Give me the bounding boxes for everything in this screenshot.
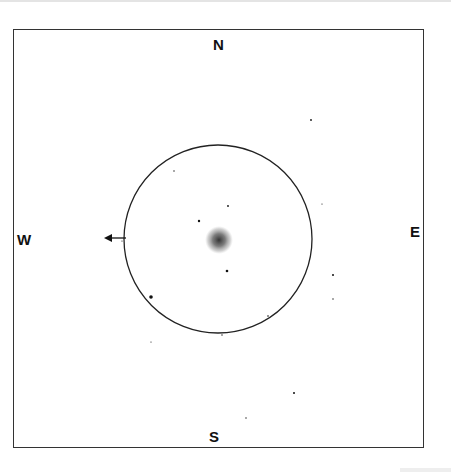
star [221,334,222,335]
label-south: S [209,428,219,445]
sky-sketch [0,0,451,472]
star [121,240,122,241]
star [321,203,322,204]
star [293,392,295,394]
nebula-object [205,226,233,254]
star [149,295,153,299]
star [173,170,174,171]
star-field [121,119,334,419]
star [310,119,312,121]
star [332,298,333,299]
label-west: W [17,231,31,248]
star [198,220,200,222]
drift-arrow-icon [104,234,126,242]
label-north: N [213,36,224,53]
star [267,315,269,317]
star [226,270,229,273]
star [227,205,229,207]
star [245,417,246,418]
star [332,274,334,276]
label-east: E [410,223,420,240]
star [150,341,151,342]
